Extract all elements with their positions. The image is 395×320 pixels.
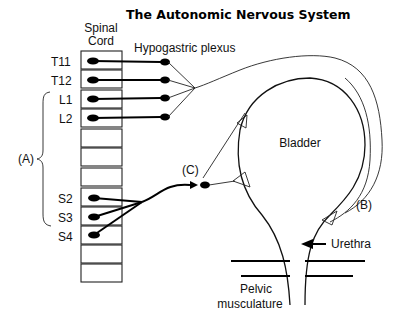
segment-blank-1 <box>81 129 122 147</box>
nerve-t11 <box>93 61 161 62</box>
bladder-wall <box>238 78 365 305</box>
label-t11: T11 <box>51 55 71 69</box>
nerve-c-to-bladder <box>209 181 235 185</box>
nerve-l2 <box>93 117 161 118</box>
urethra-label: Urethra <box>331 237 371 251</box>
ganglion-c <box>200 182 210 189</box>
bracket-a <box>37 92 51 226</box>
pelvic-nerve <box>142 185 190 202</box>
pelvic-label-line2: musculature <box>217 297 283 311</box>
autonomic-nervous-system-diagram: The Autonomic Nervous System Spinal Cord… <box>0 0 395 320</box>
nerve-b-outer <box>195 56 382 213</box>
segment-blank-5 <box>81 264 122 282</box>
label-b: (B) <box>356 198 372 212</box>
post-fiber-4 <box>168 88 195 117</box>
label-c: (C) <box>182 163 199 177</box>
label-t12: T12 <box>51 74 72 88</box>
bladder-label: Bladder <box>279 136 320 150</box>
label-s4: S4 <box>58 230 73 244</box>
spinal-cord-column <box>81 51 122 282</box>
pelvic-label-line1: Pelvic <box>240 282 272 296</box>
nerve-ending-b <box>322 211 337 225</box>
label-l1: L1 <box>59 93 73 107</box>
label-s2: S2 <box>58 192 73 206</box>
urethra-arrow-icon <box>301 239 313 249</box>
label-l2: L2 <box>59 112 73 126</box>
spinal-label-line1: Spinal <box>84 21 117 35</box>
synapse-arrow-c <box>190 181 198 189</box>
spinal-label-line2: Cord <box>88 34 114 48</box>
nerve-l1 <box>93 98 161 99</box>
label-a: (A) <box>18 152 34 166</box>
label-s3: S3 <box>58 211 73 225</box>
segment-t11 <box>81 51 122 69</box>
segment-blank-2 <box>81 148 122 166</box>
segment-s2 <box>81 188 122 206</box>
segment-blank-4 <box>81 245 122 263</box>
hypogastric-plexus-label: Hypogastric plexus <box>134 41 235 55</box>
segment-blank-3 <box>81 168 122 186</box>
diagram-title: The Autonomic Nervous System <box>126 7 351 22</box>
